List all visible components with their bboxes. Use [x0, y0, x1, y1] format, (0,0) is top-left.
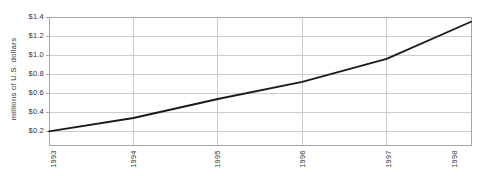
y-tick-label: $1.2	[12, 32, 44, 40]
x-tick-label: 1995	[214, 150, 222, 168]
x-tick-label: 1993	[50, 150, 58, 168]
y-tick-label: $0.2	[12, 128, 44, 136]
x-tick-label: 1996	[299, 150, 307, 168]
x-tick-label: 1994	[131, 150, 139, 168]
y-tick-label: $1.4	[12, 13, 44, 21]
y-tick-label: $0.8	[12, 70, 44, 78]
y-tick-label: $0.4	[12, 109, 44, 117]
line-chart-figure: millions of U.S. dollars $0.2$0.4$0.6$0.…	[0, 0, 487, 176]
x-tick-label: 1997	[385, 150, 393, 168]
data-line-series	[49, 22, 471, 132]
plot-area	[0, 0, 487, 176]
y-tick-label: $1.0	[12, 51, 44, 59]
y-tick-label: $0.6	[12, 89, 44, 97]
x-tick-label: 1998	[451, 150, 459, 168]
